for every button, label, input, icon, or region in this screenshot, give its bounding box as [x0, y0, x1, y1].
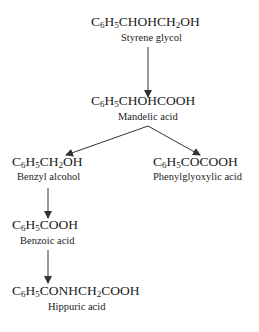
formula-mandelic-acid: C6H5CHOHCOOH	[91, 94, 195, 108]
formula-styrene-glycol: C6H5CHOHCH2OH	[91, 15, 200, 29]
label-styrene-glycol: Styrene glycol	[121, 33, 182, 44]
label-benzoic-acid: Benzoic acid	[20, 236, 75, 247]
formula-hippuric-acid: C6H5CONHCH2COOH	[12, 284, 140, 298]
arrow-mandelic-to-phenylglyoxylic	[148, 126, 200, 155]
label-mandelic-acid: Mandelic acid	[118, 112, 178, 123]
arrow-mandelic-to-benzyl	[66, 126, 148, 155]
formula-benzyl-alcohol: C6H5CH2OH	[12, 155, 83, 169]
label-benzyl-alcohol: Benzyl alcohol	[17, 172, 80, 183]
formula-phenylglyoxylic-acid: C6H5COCOOH	[153, 155, 238, 169]
label-hippuric-acid: Hippuric acid	[48, 302, 105, 313]
label-phenylglyoxylic-acid: Phenylglyoxylic acid	[153, 172, 242, 183]
formula-benzoic-acid: C6H5COOH	[12, 218, 78, 232]
